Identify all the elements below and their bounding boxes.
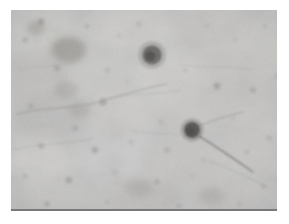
- punctum-16: [99, 98, 107, 106]
- blob-6: [198, 187, 224, 205]
- punctum-2: [84, 23, 89, 28]
- micrograph-viewport: [0, 0, 289, 224]
- punctum-7: [263, 24, 268, 29]
- punctum-26: [244, 149, 249, 154]
- punctum-28: [66, 177, 72, 183]
- punctum-12: [213, 82, 220, 89]
- punctum-13: [250, 87, 256, 93]
- cell-1-nucleus: [145, 51, 155, 61]
- punctum-29: [113, 170, 118, 175]
- punctum-31: [191, 174, 196, 179]
- punctum-1: [22, 37, 28, 43]
- punctum-27: [22, 173, 27, 178]
- blob-1: [52, 37, 86, 63]
- punctum-8: [54, 65, 60, 71]
- blob-5: [125, 179, 153, 197]
- punctum-24: [164, 147, 170, 153]
- punctum-0: [38, 19, 45, 26]
- punctum-30: [154, 179, 160, 185]
- punctum-10: [125, 80, 129, 84]
- punctum-3: [117, 34, 122, 39]
- punctum-20: [266, 135, 272, 141]
- punctum-15: [28, 103, 34, 109]
- punctum-34: [105, 200, 110, 205]
- cell-2-nucleus: [186, 127, 195, 136]
- punctum-35: [176, 203, 181, 208]
- punctum-17: [72, 125, 78, 131]
- punctum-25: [201, 158, 206, 163]
- blob-3: [54, 81, 78, 99]
- punctum-23: [128, 139, 133, 144]
- punctum-36: [237, 202, 242, 207]
- punctum-32: [260, 183, 265, 188]
- micrograph-plate: [11, 10, 277, 211]
- punctum-18: [158, 119, 163, 124]
- micrograph-canvas: [11, 10, 277, 211]
- punctum-9: [104, 67, 109, 72]
- punctum-4: [136, 21, 142, 27]
- punctum-6: [233, 38, 237, 42]
- punctum-19: [231, 116, 236, 121]
- punctum-33: [44, 201, 50, 207]
- punctum-21: [38, 143, 44, 149]
- blob-4: [68, 102, 90, 118]
- punctum-5: [204, 23, 209, 28]
- punctum-11: [183, 68, 188, 73]
- punctum-22: [92, 147, 99, 154]
